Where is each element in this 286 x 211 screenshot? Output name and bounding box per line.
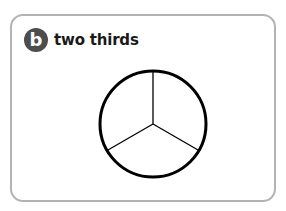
- worksheet-card: b two thirds: [10, 14, 276, 202]
- fraction-diagram: [90, 61, 216, 187]
- question-label: two thirds: [54, 31, 139, 50]
- question-letter-badge: b: [24, 28, 48, 52]
- question-header: b two thirds: [24, 28, 139, 52]
- circle-thirds-svg: [90, 61, 216, 187]
